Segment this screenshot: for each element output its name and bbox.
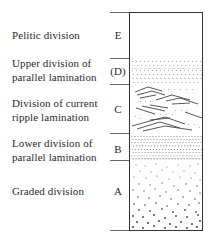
division-a-label: Graded division — [12, 184, 84, 198]
bouma-sequence-diagram: Pelitic division E Upper division of par… — [0, 0, 211, 239]
division-c-label: Division of current ripple lamination — [12, 96, 98, 124]
division-b-label: Lower division of parallel lamination — [12, 136, 97, 164]
division-a-letter: A — [108, 184, 128, 198]
division-c-letter: C — [108, 102, 128, 116]
division-d-label-line-2: parallel lamination — [12, 70, 97, 84]
division-d-pattern — [132, 61, 203, 83]
division-b-letter: B — [108, 142, 128, 156]
division-a-label-line-1: Graded division — [12, 184, 84, 198]
division-e-letter: E — [108, 28, 128, 42]
column-outline — [130, 13, 203, 231]
division-b-label-line-2: parallel lamination — [12, 150, 97, 164]
division-d-label-line-1: Upper division of — [12, 56, 97, 70]
division-b-label-line-1: Lower division of — [12, 136, 97, 150]
division-c-ripples — [132, 87, 202, 131]
division-d-letter: (D) — [108, 64, 128, 78]
division-b-pattern — [132, 136, 204, 159]
division-c-label-line-2: ripple lamination — [12, 110, 98, 124]
division-d-label: Upper division of parallel lamination — [12, 56, 97, 84]
division-c-dots — [135, 89, 200, 128]
division-e-label-line-1: Pelitic division — [12, 28, 80, 42]
division-c-label-line-1: Division of current — [12, 96, 98, 110]
division-e-label: Pelitic division — [12, 28, 80, 42]
division-a-graded-pattern — [132, 164, 201, 230]
